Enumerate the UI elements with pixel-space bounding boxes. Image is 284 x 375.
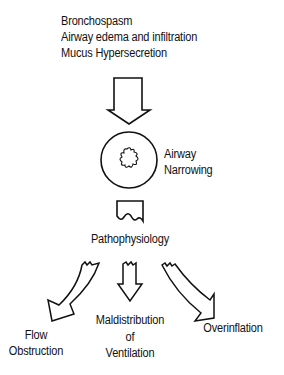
outcome-maldistribution-line1: Maldistribution [86, 312, 174, 328]
outcome-flow-line2: Obstruction [4, 343, 67, 359]
airway-label-line2: Narrowing [164, 162, 213, 178]
airway-label-line1: Airway [164, 146, 196, 162]
cause-bronchospasm: Bronchospasm [61, 13, 132, 29]
cause-mucus-hypersecretion: Mucus Hypersecretion [61, 45, 167, 61]
pathophysiology-label: Pathophysiology [86, 231, 174, 247]
down-arrow-icon [108, 78, 150, 124]
middle-down-arrow-icon [118, 262, 142, 301]
outcome-maldistribution-line3: Ventilation [86, 345, 174, 361]
outcome-flow-line1: Flow [4, 327, 67, 343]
outcome-overinflation: Overinflation [193, 320, 272, 336]
wavy-box-icon [117, 201, 143, 221]
outcome-maldistribution-line2: of [86, 329, 174, 345]
cause-airway-edema: Airway edema and infiltration [61, 29, 197, 45]
